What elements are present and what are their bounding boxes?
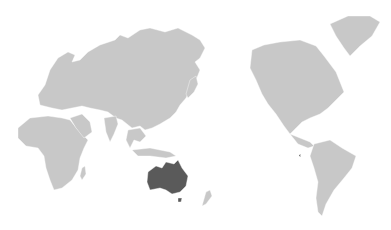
region-india xyxy=(104,116,118,142)
world-map xyxy=(0,0,391,230)
region-north-america xyxy=(250,40,344,134)
region-new-zealand xyxy=(202,190,212,206)
region-southeast-asia xyxy=(126,128,146,148)
region-indonesia xyxy=(132,148,176,158)
region-eurasia xyxy=(38,28,205,130)
region-central-america xyxy=(290,134,314,148)
region-south-america xyxy=(310,140,356,216)
region-pacific-island xyxy=(299,154,301,157)
region-madagascar xyxy=(80,166,86,180)
region-australia-highlighted xyxy=(147,160,188,194)
region-greenland xyxy=(330,16,380,56)
region-tasmania-highlighted xyxy=(178,198,182,202)
